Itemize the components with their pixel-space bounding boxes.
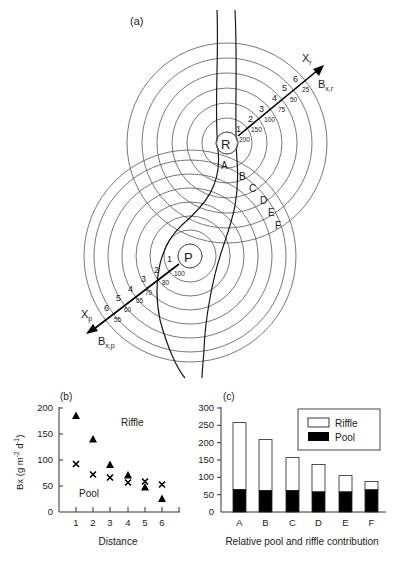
svg-text:70: 70 — [145, 289, 153, 296]
svg-text:4: 4 — [272, 93, 277, 103]
svg-text:1: 1 — [236, 124, 241, 134]
svg-text:150: 150 — [198, 454, 214, 465]
svg-text:B: B — [262, 517, 268, 528]
riffle-annotation: Riffle — [121, 417, 144, 428]
svg-text:150: 150 — [37, 428, 53, 439]
svg-text:F: F — [369, 517, 375, 528]
panel-b-scatter-chart: (b) 0 50 100 150 200 1 2 — [13, 391, 180, 547]
svg-text:6: 6 — [104, 303, 109, 313]
river-left-bank — [157, 10, 219, 378]
y-tick-labels: 0 50 100 150 200 — [37, 402, 53, 517]
panel-a: (a) — [81, 10, 334, 378]
svg-text:5: 5 — [282, 83, 287, 93]
y-tick-labels: 0 50 100 150 200 250 300 — [198, 402, 214, 517]
svg-text:200: 200 — [198, 437, 214, 448]
triangle-marker-icon — [89, 435, 97, 443]
svg-text:5: 5 — [116, 293, 121, 303]
svg-text:2: 2 — [90, 517, 95, 528]
cross-marker-icon — [73, 461, 79, 467]
svg-text:0: 0 — [209, 506, 214, 517]
pool-axis-arrow — [86, 264, 179, 334]
cross-marker-icon — [125, 480, 131, 486]
svg-text:2: 2 — [248, 114, 253, 124]
cross-marker-icon — [90, 472, 96, 478]
svg-text:200: 200 — [37, 402, 53, 413]
svg-text:25: 25 — [302, 86, 310, 93]
y-axis-title: Bx (g m-2 d-1) — [13, 435, 25, 490]
svg-text:3: 3 — [259, 104, 264, 114]
pool-b-label: Bx,p — [98, 335, 115, 350]
svg-text:100: 100 — [264, 116, 275, 123]
legend-pool-label: Pool — [335, 432, 355, 443]
x-tick-labels: 1 2 3 4 5 6 — [73, 517, 164, 528]
triangle-marker-icon — [124, 471, 132, 479]
svg-text:150: 150 — [251, 126, 262, 133]
x-tick-labels: A B C D E F — [236, 517, 374, 528]
svg-text:1: 1 — [73, 517, 78, 528]
svg-text:50: 50 — [203, 489, 214, 500]
cross-marker-icon — [159, 482, 165, 488]
arrowhead-icon — [86, 324, 98, 334]
pool-value-labels: 100 80 70 65 60 55 — [114, 270, 185, 323]
svg-text:E: E — [268, 207, 275, 218]
svg-text:C: C — [289, 517, 296, 528]
svg-text:0: 0 — [48, 506, 53, 517]
riffle-distance-labels: 1 2 3 4 5 6 — [236, 74, 298, 134]
x-axis-title: Distance — [99, 536, 138, 547]
svg-text:A: A — [221, 160, 228, 171]
svg-text:3: 3 — [107, 517, 112, 528]
bar-A — [233, 423, 246, 512]
panel-b-label: (b) — [60, 391, 72, 402]
svg-text:60: 60 — [124, 306, 132, 313]
bar-E — [339, 476, 352, 512]
riffle-swatch — [308, 418, 329, 427]
triangle-marker-icon — [72, 412, 80, 420]
bar-B — [259, 440, 272, 513]
svg-text:B: B — [239, 171, 246, 182]
svg-text:100: 100 — [174, 270, 185, 277]
y-ticks — [217, 408, 221, 495]
riffle-center-label: R — [221, 137, 230, 152]
svg-text:50: 50 — [290, 96, 298, 103]
svg-text:200: 200 — [239, 136, 250, 143]
svg-text:6: 6 — [159, 517, 164, 528]
panel-c-label: (c) — [223, 391, 235, 402]
svg-text:6: 6 — [293, 74, 298, 84]
svg-text:5: 5 — [142, 517, 147, 528]
legend-riffle-label: Riffle — [335, 418, 358, 429]
pool-swatch — [308, 432, 329, 441]
triangle-marker-icon — [106, 461, 114, 469]
svg-text:250: 250 — [198, 419, 214, 430]
river-banks — [157, 10, 238, 378]
pool-axis-label: Xp — [81, 308, 92, 323]
svg-text:E: E — [342, 517, 348, 528]
svg-text:2: 2 — [154, 265, 159, 275]
panel-c-stacked-bar-chart: (c) 0 50 100 150 200 250 300 — [198, 391, 386, 547]
cross-marker-icon — [107, 475, 113, 481]
triangle-marker-icon — [158, 495, 166, 503]
riffle-axis-label: Xr — [302, 52, 312, 66]
x-axis-title: Relative pool and riffle contribution — [225, 536, 378, 547]
riffle-b-label: Bx,r — [318, 78, 334, 92]
svg-text:55: 55 — [114, 316, 122, 323]
svg-text:D: D — [315, 517, 322, 528]
arrowhead-icon — [313, 65, 324, 76]
bar-C — [286, 458, 299, 512]
pool-annotation: Pool — [79, 488, 99, 499]
svg-text:4: 4 — [128, 284, 133, 294]
pool-series-crosses — [73, 461, 165, 488]
bar-D — [312, 465, 325, 513]
svg-text:65: 65 — [136, 297, 144, 304]
figure: (a) — [0, 0, 401, 562]
svg-text:A: A — [236, 517, 243, 528]
y-ticks — [59, 408, 63, 486]
svg-text:1: 1 — [167, 254, 172, 264]
svg-text:3: 3 — [141, 274, 146, 284]
pool-center-label: P — [184, 250, 193, 265]
svg-text:75: 75 — [278, 106, 286, 113]
bar-F — [365, 482, 378, 513]
legend: Riffle Pool — [298, 409, 380, 450]
svg-text:80: 80 — [162, 279, 170, 286]
svg-text:100: 100 — [37, 454, 53, 465]
svg-text:50: 50 — [42, 480, 53, 491]
